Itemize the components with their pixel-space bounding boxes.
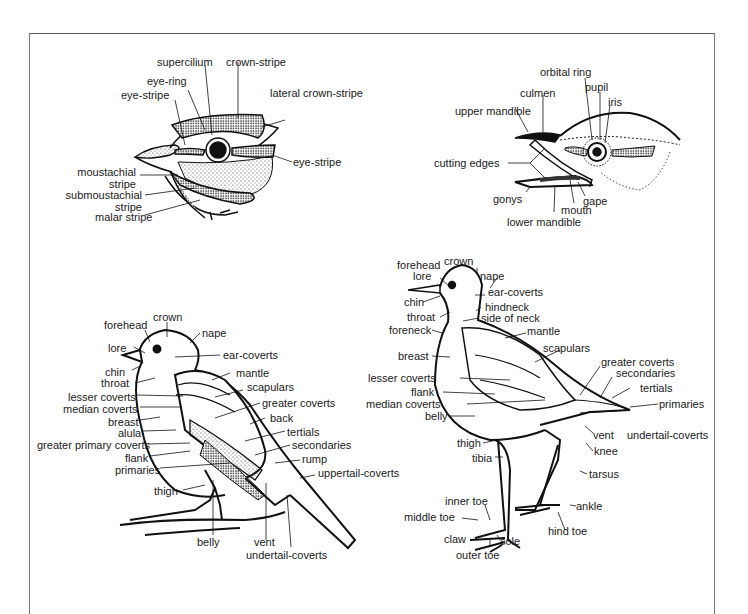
label-wader-nape: nape [480,270,504,282]
label-vent: vent [254,536,275,548]
label-wader-chin: chin [404,296,424,308]
bill-and-eye-drawing [515,113,680,190]
label-lower-mandible: lower mandible [507,216,581,228]
label-primaries: primaries [115,464,160,476]
label-upper-mandible: upper mandible [455,105,531,117]
label-wader-breast: breast [398,350,429,362]
label-wader-ear-coverts: ear-coverts [488,286,543,298]
label-uppertail-coverts: uppertail-coverts [318,467,399,479]
label-wader-lore: lore [413,270,431,282]
label-wader-hind-toe: hind toe [548,525,587,537]
label-wader-mantle: mantle [527,325,560,337]
label-wader-vent: vent [593,429,614,441]
label-undertail-coverts: undertail-coverts [246,549,327,561]
label-wader-lesser-coverts: lesser coverts [368,372,436,384]
label-wader-tertials: tertials [640,382,672,394]
label-cutting-edges: cutting edges [434,157,499,169]
label-wader-crown: crown [444,255,473,267]
label-crown: crown [153,311,182,323]
label-wader-median-coverts: median coverts [366,398,441,410]
label-wader-ankle: ankle [576,500,602,512]
label-secondaries: secondaries [292,439,351,451]
label-wader-throat: throat [407,311,435,323]
label-greater-coverts: greater coverts [262,397,335,409]
label-wader-middle-toe: middle toe [404,511,455,523]
label-eye-ring: eye-ring [147,75,187,87]
head-markings-drawing [135,114,278,220]
label-wader-primaries: primaries [659,398,704,410]
label-supercilium: supercilium [157,56,213,68]
label-rump: rump [302,453,327,465]
label-lesser-coverts: lesser coverts [68,391,136,403]
label-belly: belly [197,536,220,548]
label-wader-tarsus: tarsus [589,468,619,480]
label-wader-foreneck: foreneck [389,324,431,336]
label-back: back [270,412,293,424]
label-scapulars: scapulars [247,381,294,393]
label-gonys: gonys [493,193,522,205]
label-throat: throat [101,377,129,389]
label-eye-stripe-left: eye-stripe [121,89,169,101]
label-crown-stripe: crown-stripe [226,56,286,68]
label-wader-secondaries: secondaries [616,367,675,379]
label-flank: flank [125,452,148,464]
label-thigh: thigh [154,485,178,497]
label-greater-primary-coverts: greater primary coverts [37,439,150,451]
label-forehead: forehead [104,319,147,331]
label-wader-knee: knee [594,445,618,457]
label-wader-side-of-neck: side of neck [481,312,540,324]
label-moustachial: moustachialstripe [60,166,136,190]
label-mantle: mantle [236,367,269,379]
label-lateral-crown-stripe: lateral crown-stripe [270,87,363,99]
label-wader-scapulars: scapulars [543,342,590,354]
label-wader-inner-toe: inner toe [445,495,488,507]
label-alula: alula [118,427,141,439]
label-orbital-ring: orbital ring [540,66,591,78]
label-wader-claw: claw [444,533,466,545]
label-submoustachial: submoustachialstripe [50,189,142,213]
label-iris: iris [608,96,622,108]
label-ear-coverts: ear-coverts [223,349,278,361]
label-wader-tibia: tibia [472,452,492,464]
label-malar-stripe: malar stripe [95,211,152,223]
label-culmen: culmen [520,87,555,99]
label-wader-outer-toe: outer toe [456,549,499,561]
label-nape: nape [202,327,226,339]
label-eye-stripe-right: eye-stripe [293,156,341,168]
label-tertials: tertials [287,426,319,438]
label-mouth: mouth [561,204,592,216]
label-wader-flank: flank [411,386,434,398]
label-wader-sole: sole [500,535,520,547]
label-wader-belly: belly [425,410,448,422]
label-lore: lore [108,342,126,354]
label-wader-undertail-coverts: undertail-coverts [627,429,708,441]
label-median-coverts: median coverts [63,403,138,415]
label-wader-thigh: thigh [457,437,481,449]
label-pupil: pupil [585,81,608,93]
